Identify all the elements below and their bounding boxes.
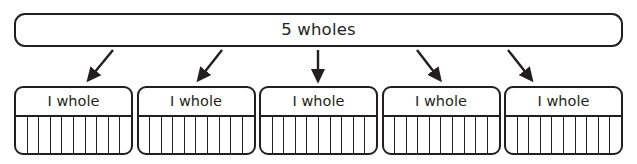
unit-cell [74,117,86,153]
arrow-down-icon-4 [417,50,439,79]
unit-cell [529,117,541,153]
unit-cell [541,117,553,153]
unit-cell [196,117,208,153]
unit-cell [261,117,273,153]
unit-label-area: I whole [506,88,621,117]
unit-cell [243,117,254,153]
unit-cell [365,117,376,153]
unit-cell [296,117,308,153]
unit-box: I whole [259,86,378,155]
unit-box-label: I whole [415,94,467,109]
unit-cell [354,117,366,153]
unit-cell [220,117,232,153]
unit-cell [395,117,407,153]
unit-cell [441,117,453,153]
arrow-down-icon-5 [508,50,531,79]
arrow-down-icon-1 [90,50,114,79]
unit-cell [150,117,162,153]
unit-label-area: I whole [139,88,254,117]
unit-cell [97,117,109,153]
unit-cell [208,117,220,153]
unit-box: I whole [14,86,133,155]
unit-box: I whole [137,86,256,155]
unit-cell [231,117,243,153]
unit-cell [342,117,354,153]
arrow-down-icon-2 [200,50,223,79]
unit-cell [488,117,499,153]
unit-label-area: I whole [16,88,131,117]
unit-cell [62,117,74,153]
unit-cell [587,117,599,153]
unit-cell [576,117,588,153]
unit-cell [430,117,442,153]
whole-bar-label: 5 wholes [281,22,356,39]
unit-cell [564,117,576,153]
arrow-group [90,50,531,79]
unit-cell [120,117,131,153]
unit-box-label: I whole [170,94,222,109]
unit-cell [384,117,396,153]
unit-cell [407,117,419,153]
whole-bar: 5 wholes [14,13,623,47]
unit-cell [518,117,530,153]
unit-cell [39,117,51,153]
unit-cell [51,117,63,153]
unit-cells [384,117,499,153]
unit-label-area: I whole [384,88,499,117]
unit-cell [86,117,98,153]
unit-cell [284,117,296,153]
unit-label-area: I whole [261,88,376,117]
unit-box-label: I whole [48,94,100,109]
unit-cell [465,117,477,153]
unit-box: I whole [382,86,501,155]
unit-cells [261,117,376,153]
unit-cells [139,117,254,153]
unit-cell [139,117,151,153]
unit-box-label: I whole [538,94,590,109]
unit-box-label: I whole [293,94,345,109]
unit-cell [418,117,430,153]
unit-cells [16,117,131,153]
unit-cell [453,117,465,153]
unit-cells [506,117,621,153]
unit-cell [162,117,174,153]
unit-cell [506,117,518,153]
unit-cell [307,117,319,153]
fraction-bar-diagram: 5 wholes I whole [0,0,637,164]
unit-box: I whole [504,86,623,155]
unit-cell [476,117,488,153]
unit-boxes-row: I whole I whole [14,86,623,156]
unit-cell [16,117,28,153]
unit-cell [185,117,197,153]
unit-cell [109,117,121,153]
unit-cell [599,117,611,153]
unit-cell [331,117,343,153]
unit-cell [552,117,564,153]
unit-cell [610,117,621,153]
unit-cell [173,117,185,153]
unit-cell [273,117,285,153]
unit-cell [319,117,331,153]
unit-cell [28,117,40,153]
